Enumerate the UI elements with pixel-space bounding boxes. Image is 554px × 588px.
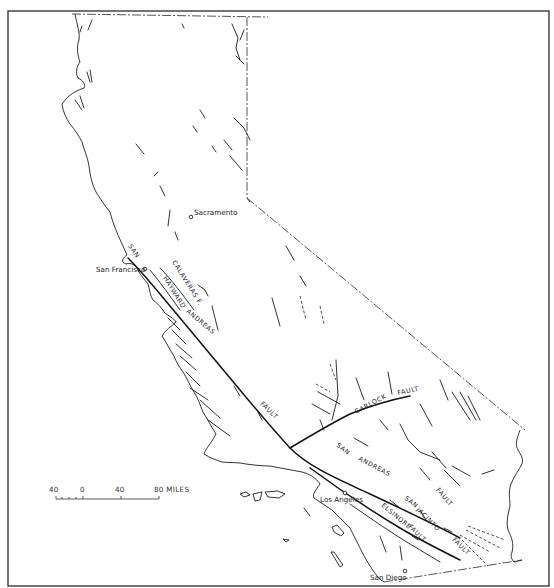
city-marker-sacramento bbox=[189, 215, 193, 219]
state-borders bbox=[72, 14, 525, 582]
minor-dashed-faults bbox=[300, 296, 336, 392]
label-san-jacinto-3: FAULT bbox=[451, 536, 472, 557]
city-label-san-francisco: San Francisco bbox=[96, 265, 145, 274]
island-san-clemente bbox=[331, 552, 343, 567]
cities: Sacramento San Francisco Los Angeles San… bbox=[96, 208, 407, 582]
label-san-andreas-north-2: ANDREAS bbox=[185, 307, 217, 336]
oregon-border bbox=[72, 14, 268, 17]
coastline bbox=[62, 14, 523, 582]
san-jacinto-fault bbox=[310, 468, 460, 560]
island-san-miguel bbox=[240, 492, 250, 497]
label-garlock-2: FAULT bbox=[397, 385, 420, 397]
city-label-los-angeles: Los Angeles bbox=[320, 495, 363, 504]
island-santa-catalina bbox=[332, 525, 344, 536]
garlock-fault bbox=[290, 396, 410, 448]
label-san-andreas-south-3: FAULT bbox=[434, 486, 454, 508]
city-label-sacramento: Sacramento bbox=[194, 208, 237, 217]
faults bbox=[75, 20, 505, 566]
island-santa-rosa bbox=[253, 492, 262, 501]
scale-label-40-west: 40 bbox=[49, 485, 59, 494]
scale-label-40: 40 bbox=[115, 485, 125, 494]
label-san-andreas-south-2: ANDREAS bbox=[357, 455, 392, 479]
scale-label-0: 0 bbox=[80, 485, 85, 494]
label-san-andreas-north-3: FAULT bbox=[259, 400, 280, 421]
city-label-san-diego: San Diego bbox=[370, 573, 407, 582]
minor-faults-central bbox=[160, 186, 306, 436]
label-san-andreas-north-1: SAN bbox=[126, 243, 141, 260]
island-santa-barbara bbox=[283, 539, 289, 542]
scale-label-80-miles: 80 MILES bbox=[154, 485, 189, 494]
fault-labels: SAN CALAVERAS F. HAYWARD ANDREAS FAULT G… bbox=[126, 243, 471, 557]
minor-faults-north bbox=[75, 20, 250, 176]
california-fault-map: Sacramento San Francisco Los Angeles San… bbox=[0, 0, 554, 588]
scale-bar: 40 0 40 80 MILES bbox=[49, 485, 189, 499]
map-frame bbox=[8, 11, 549, 586]
nevada-border-diagonal bbox=[247, 198, 525, 430]
label-san-andreas-south-1: SAN bbox=[335, 441, 352, 457]
island-santa-cruz bbox=[265, 491, 285, 498]
label-garlock-1: GARLOCK bbox=[353, 392, 388, 416]
